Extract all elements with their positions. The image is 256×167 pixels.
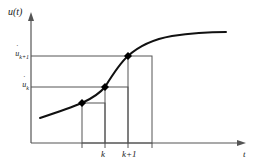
figure-canvas: u(t) t ˙ u k+1 ˙ u k k k+1: [0, 0, 256, 167]
signal-curve: [40, 32, 226, 118]
y-axis-label: u(t): [8, 7, 22, 17]
guide-lines: [31, 56, 128, 87]
symbol-subscript: k: [26, 85, 29, 91]
y-axis: [28, 12, 34, 143]
rect-k-plus-1: [128, 56, 152, 143]
overdot-accent-icon: ˙: [22, 76, 26, 84]
x-tick-label-k: k: [101, 150, 105, 159]
y-tick-label-u-k: ˙ u k: [0, 81, 29, 91]
symbol-subscript: k+1: [19, 54, 29, 60]
x-axis-arrow-icon: [237, 140, 246, 146]
rect-k-minus-1: [82, 103, 105, 143]
x-tick-label-k-plus-1: k+1: [122, 150, 137, 159]
x-axis-ticks: [82, 143, 152, 148]
plot-svg: [0, 0, 256, 167]
rect-k: [105, 87, 128, 143]
y-axis-arrow-icon: [28, 12, 34, 21]
accented-symbol: ˙ u: [22, 81, 26, 89]
accented-symbol: ˙ u: [15, 50, 19, 58]
sample-point-k-minus-1: [78, 99, 86, 107]
overdot-accent-icon: ˙: [15, 45, 19, 53]
x-axis: [31, 140, 246, 146]
x-axis-label: t: [243, 150, 246, 159]
y-tick-label-u-k-plus-1: ˙ u k+1: [0, 50, 29, 60]
